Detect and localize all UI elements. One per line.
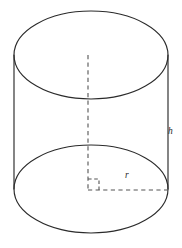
height-label: h	[168, 126, 173, 136]
bottom-base-ellipse	[14, 145, 168, 233]
radius-label: r	[125, 170, 129, 180]
cylinder-figure: h r	[0, 0, 182, 248]
top-base-ellipse	[14, 11, 168, 99]
right-angle-marker	[88, 179, 99, 190]
cylinder-diagram-svg: h r	[0, 0, 182, 248]
